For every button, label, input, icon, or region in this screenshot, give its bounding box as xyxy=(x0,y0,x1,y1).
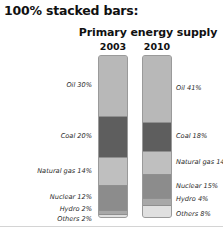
bar-2010[interactable] xyxy=(142,55,172,218)
segment-label-2003-coal: Coal 20% xyxy=(61,133,92,140)
bar-2003[interactable] xyxy=(98,55,128,218)
chart-title: Primary energy supply xyxy=(78,26,218,39)
segment-label-2003-nuclear: Nuclear 12% xyxy=(50,194,92,201)
bar-segment-coal[interactable] xyxy=(143,123,171,152)
bar-segment-natural-gas[interactable] xyxy=(99,158,127,187)
column-header-2010: 2010 xyxy=(140,41,174,52)
segment-label-2010-hydro: Hydro 4% xyxy=(176,196,208,203)
bar-segment-coal[interactable] xyxy=(99,117,127,158)
bar-segment-nuclear[interactable] xyxy=(143,175,171,199)
segment-label-2010-natural-gas: Natural gas 14% xyxy=(176,159,223,166)
segment-label-2003-hydro: Hydro 2% xyxy=(60,206,92,213)
page-title: 100% stacked bars: xyxy=(4,3,138,18)
segment-label-2003-oil: Oil 30% xyxy=(66,82,92,89)
bar-segment-oil[interactable] xyxy=(99,56,127,117)
segment-label-2010-nuclear: Nuclear 15% xyxy=(176,183,218,190)
bar-segment-others[interactable] xyxy=(99,215,127,218)
segment-label-2010-oil: Oil 41% xyxy=(176,85,202,92)
column-header-2003: 2003 xyxy=(96,41,130,52)
stacked-bar-chart: Primary energy supply 2003 2010 Oil 30%C… xyxy=(0,26,223,226)
bar-segment-nuclear[interactable] xyxy=(99,186,127,210)
segment-label-2003-natural-gas: Natural gas 14% xyxy=(37,168,92,175)
bar-segment-natural-gas[interactable] xyxy=(143,152,171,175)
segment-label-2003-others: Others 2% xyxy=(57,216,92,223)
bar-segment-others[interactable] xyxy=(143,206,171,218)
bar-segment-oil[interactable] xyxy=(143,56,171,123)
segment-label-2010-coal: Coal 18% xyxy=(176,133,207,140)
bottom-divider xyxy=(0,226,223,227)
segment-label-2010-others: Others 8% xyxy=(176,211,211,218)
